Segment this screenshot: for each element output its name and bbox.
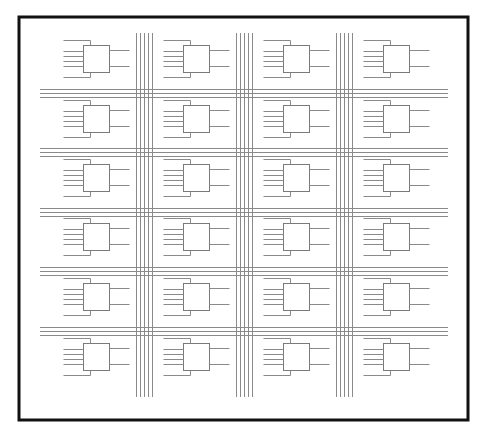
input-pin-top (364, 41, 391, 46)
input-pin-top (264, 160, 291, 165)
input-pin-top (164, 279, 191, 284)
input-pin-bottom (264, 251, 291, 256)
input-pin-bottom (264, 371, 291, 376)
input-pin-bottom (264, 192, 291, 197)
logic-block (264, 41, 330, 78)
input-pin-bottom (364, 251, 391, 256)
logic-block-body (184, 165, 210, 192)
logic-block-body (84, 224, 110, 251)
logic-block-body (284, 344, 310, 371)
input-pin-top (364, 219, 391, 224)
input-pin-top (64, 101, 91, 106)
logic-block-body (284, 224, 310, 251)
fpga-routing-diagram (0, 0, 485, 437)
logic-block (64, 160, 130, 197)
input-pin-bottom (264, 73, 291, 78)
logic-block (364, 101, 430, 138)
logic-block (164, 339, 230, 376)
input-pin-bottom (164, 371, 191, 376)
input-pin-bottom (164, 251, 191, 256)
input-pin-top (364, 101, 391, 106)
diagram-canvas (0, 0, 485, 437)
logic-block (264, 219, 330, 256)
input-pin-top (64, 219, 91, 224)
logic-block-body (284, 46, 310, 73)
input-pin-bottom (64, 251, 91, 256)
logic-block-body (84, 344, 110, 371)
logic-block (64, 219, 130, 256)
input-pin-bottom (364, 192, 391, 197)
input-pin-bottom (164, 311, 191, 316)
routing-channels (40, 33, 448, 397)
input-pin-bottom (164, 73, 191, 78)
input-pin-top (64, 339, 91, 344)
input-pin-bottom (64, 133, 91, 138)
input-pin-top (264, 279, 291, 284)
input-pin-top (364, 160, 391, 165)
input-pin-top (264, 339, 291, 344)
input-pin-bottom (164, 133, 191, 138)
input-pin-top (164, 339, 191, 344)
logic-block (364, 160, 430, 197)
input-pin-top (264, 101, 291, 106)
input-pin-bottom (164, 192, 191, 197)
logic-block-body (284, 106, 310, 133)
logic-block (164, 219, 230, 256)
logic-block-body (384, 46, 410, 73)
logic-block-body (84, 284, 110, 311)
logic-block-body (184, 344, 210, 371)
logic-block (164, 160, 230, 197)
input-pin-bottom (64, 311, 91, 316)
input-pin-bottom (364, 73, 391, 78)
input-pin-top (264, 219, 291, 224)
input-pin-top (164, 41, 191, 46)
input-pin-top (64, 160, 91, 165)
logic-block-body (384, 224, 410, 251)
logic-block (364, 219, 430, 256)
logic-block (164, 279, 230, 316)
logic-block-body (184, 46, 210, 73)
input-pin-bottom (364, 311, 391, 316)
input-pin-bottom (264, 133, 291, 138)
logic-block-body (84, 106, 110, 133)
vertical-channel (137, 33, 153, 397)
logic-block-body (184, 224, 210, 251)
input-pin-top (164, 219, 191, 224)
logic-block-body (84, 165, 110, 192)
logic-block (64, 339, 130, 376)
input-pin-top (164, 101, 191, 106)
logic-block (264, 160, 330, 197)
logic-block-body (384, 344, 410, 371)
logic-block (264, 339, 330, 376)
logic-block-body (284, 165, 310, 192)
input-pin-bottom (64, 73, 91, 78)
logic-block-body (84, 46, 110, 73)
logic-block (64, 41, 130, 78)
logic-block-body (384, 106, 410, 133)
input-pin-top (264, 41, 291, 46)
input-pin-top (164, 160, 191, 165)
logic-block-body (184, 106, 210, 133)
logic-block (264, 101, 330, 138)
logic-block (64, 279, 130, 316)
logic-block-body (384, 284, 410, 311)
input-pin-top (364, 339, 391, 344)
input-pin-bottom (364, 371, 391, 376)
logic-block (364, 339, 430, 376)
logic-block-body (184, 284, 210, 311)
input-pin-bottom (264, 311, 291, 316)
input-pin-top (64, 279, 91, 284)
vertical-channel (237, 33, 253, 397)
logic-block (64, 101, 130, 138)
logic-block-body (284, 284, 310, 311)
input-pin-top (64, 41, 91, 46)
input-pin-top (364, 279, 391, 284)
input-pin-bottom (64, 371, 91, 376)
input-pin-bottom (64, 192, 91, 197)
logic-block-body (384, 165, 410, 192)
logic-block (164, 101, 230, 138)
logic-block (364, 279, 430, 316)
input-pin-bottom (364, 133, 391, 138)
logic-block (264, 279, 330, 316)
vertical-channel (337, 33, 353, 397)
